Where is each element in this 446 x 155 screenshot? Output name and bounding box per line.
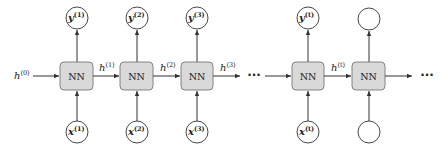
- rnn-cell-next: NN: [352, 8, 385, 143]
- input-node-next: [358, 121, 380, 143]
- state-label-2: h(2): [160, 61, 176, 73]
- state-label-1: h(1): [99, 61, 115, 73]
- nn-box-label-next: NN: [360, 71, 377, 82]
- nn-box-label-t: NN: [300, 71, 317, 82]
- state-label-t: h(t): [331, 61, 346, 73]
- rnn-cell-t: y(t) NN x(t): [292, 7, 324, 143]
- state-label-3: h(3): [220, 61, 236, 73]
- nn-box-label-2: NN: [128, 71, 145, 82]
- output-node-next: [358, 8, 380, 30]
- ellipsis-end: ···: [420, 68, 434, 82]
- rnn-cell-1: y(1) NN x(1): [60, 7, 93, 143]
- rnn-diagram: h(0) y(1) NN x(1) h(1) y(2) NN x(2) h(2)…: [0, 0, 446, 155]
- initial-state-label: h(0): [14, 69, 30, 81]
- nn-box-label-3: NN: [189, 71, 206, 82]
- nn-box-label-1: NN: [68, 71, 85, 82]
- rnn-cell-2: y(2) NN x(2): [120, 7, 153, 143]
- rnn-cell-3: y(3) NN x(3): [181, 7, 213, 143]
- ellipsis-middle: ···: [247, 68, 261, 82]
